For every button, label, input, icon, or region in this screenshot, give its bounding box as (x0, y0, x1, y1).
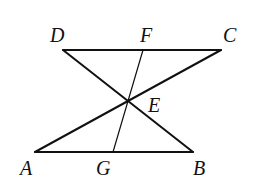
label-c: C (223, 24, 237, 46)
label-f: F (139, 24, 153, 46)
segment-fg (113, 50, 143, 152)
label-e: E (147, 94, 160, 116)
label-g: G (96, 157, 111, 179)
label-a: A (18, 157, 33, 179)
label-d: D (49, 24, 65, 46)
geometry-figure: D F C E A G B (0, 0, 257, 193)
label-b: B (193, 157, 205, 179)
